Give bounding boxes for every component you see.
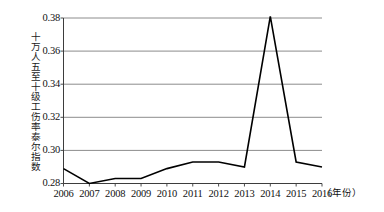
y-tick-label: 0.30: [30, 145, 60, 156]
gridlines-group: [64, 18, 323, 184]
data-series-line: [64, 16, 323, 183]
y-tick-label: 0.28: [30, 178, 60, 189]
x-axis-unit-label: （年份）: [322, 188, 362, 199]
y-tick-label: 0.32: [30, 112, 60, 123]
y-tick-label: 0.34: [30, 79, 60, 90]
y-tick-label: 0.38: [30, 13, 60, 24]
y-tick-label: 0.36: [30, 46, 60, 57]
chart-figure: 十万人五至十级工伤率泰尔指数 0.280.300.320.340.360.38 …: [0, 0, 384, 212]
